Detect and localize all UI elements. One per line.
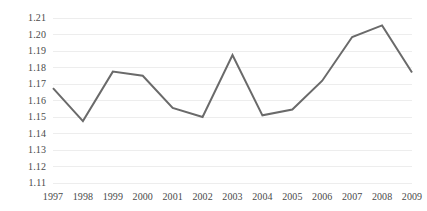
x-axis-tick-label: 1999 xyxy=(96,192,130,202)
x-axis-tick-label: 2006 xyxy=(305,192,339,202)
y-axis-tick-label: 1.17 xyxy=(16,79,46,89)
x-axis-tick-label: 2003 xyxy=(216,192,250,202)
x-axis-tick-label: 2004 xyxy=(245,192,279,202)
y-axis-tick-label: 1.21 xyxy=(16,13,46,23)
y-axis-tick-label: 1.11 xyxy=(16,178,46,188)
x-axis-tick-label: 2005 xyxy=(275,192,309,202)
x-axis-tick-label: 2008 xyxy=(365,192,399,202)
y-axis-tick-label: 1.14 xyxy=(16,129,46,139)
y-axis-tick-label: 1.12 xyxy=(16,162,46,172)
x-axis-tick-label: 2007 xyxy=(335,192,369,202)
x-axis-tick-label: 2001 xyxy=(156,192,190,202)
y-axis-tick-label: 1.19 xyxy=(16,46,46,56)
y-axis-tick-label: 1.20 xyxy=(16,30,46,40)
y-axis-tick-label: 1.15 xyxy=(16,112,46,122)
x-axis-tick-label: 1997 xyxy=(36,192,70,202)
y-axis-tick-label: 1.16 xyxy=(16,96,46,106)
y-axis-tick-label: 1.18 xyxy=(16,63,46,73)
y-axis-tick-label: 1.13 xyxy=(16,145,46,155)
data-series-line xyxy=(53,25,412,121)
x-axis-tick-label: 2002 xyxy=(186,192,220,202)
x-axis-tick-label: 2000 xyxy=(126,192,160,202)
gridlines-group xyxy=(53,18,412,183)
x-axis-tick-label: 1998 xyxy=(66,192,100,202)
x-axis-tick-label: 2009 xyxy=(395,192,427,202)
